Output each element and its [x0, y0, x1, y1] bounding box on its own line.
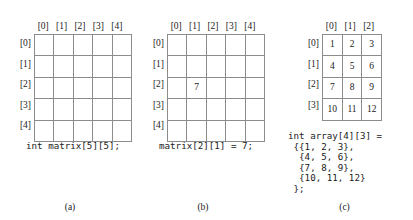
- matrix-cell-c-0-1: 2: [342, 35, 362, 56]
- matrix-cell-a-4-2: [73, 120, 92, 141]
- row-header-c-2: [2]: [302, 75, 322, 95]
- matrix-cell-c-3-2: 12: [362, 99, 382, 120]
- matrix-cell-a-4-3: [93, 120, 112, 141]
- column-header-row-b: [0][1][2][3][4]: [167, 22, 259, 32]
- column-header-a-3: [3]: [89, 22, 107, 32]
- matrix-cell-a-3-3: [93, 99, 112, 120]
- matrix-cell-b-2-0: [168, 77, 187, 98]
- row-header-a-0: [0]: [14, 34, 34, 54]
- code-caption-b: matrix[2][1] = 7;: [159, 141, 253, 152]
- matrix-cell-a-1-0: [35, 56, 54, 77]
- matrix-cell-a-2-3: [93, 77, 112, 98]
- matrix-cell-b-3-3: [226, 99, 245, 120]
- column-header-b-4: [4]: [241, 22, 259, 32]
- matrix-cell-a-2-4: [112, 77, 131, 98]
- matrix-cell-c-2-1: 8: [342, 77, 362, 98]
- matrix-cell-c-1-0: 4: [323, 56, 343, 77]
- table-row: [35, 99, 132, 120]
- matrix-cell-b-3-1: [187, 99, 206, 120]
- matrix-cell-c-3-1: 11: [342, 99, 362, 120]
- row-header-a-4: [4]: [14, 116, 34, 136]
- table-row: [35, 120, 132, 141]
- row-header-b-3: [3]: [147, 95, 167, 115]
- column-header-c-1: [1]: [341, 22, 360, 32]
- matrix-cell-b-4-0: [168, 120, 187, 141]
- matrix-cell-b-2-4: [245, 77, 264, 98]
- column-header-a-0: [0]: [34, 22, 52, 32]
- matrix-cell-b-1-2: [206, 56, 225, 77]
- matrix-cell-b-0-3: [226, 35, 245, 56]
- row-header-b-4: [4]: [147, 116, 167, 136]
- matrix-cell-a-3-4: [112, 99, 131, 120]
- matrix-grid-c: [0][1][2][3] 123456789101112: [302, 34, 382, 121]
- table-row: [168, 56, 265, 77]
- table-row: 789: [323, 77, 382, 98]
- row-header-c-0: [0]: [302, 34, 322, 54]
- table-row: 101112: [323, 99, 382, 120]
- matrix-cell-b-4-4: [245, 120, 264, 141]
- matrix-cell-a-4-0: [35, 120, 54, 141]
- matrix-cell-b-4-2: [206, 120, 225, 141]
- row-header-a-2: [2]: [14, 75, 34, 95]
- matrix-cell-a-2-0: [35, 77, 54, 98]
- column-header-b-1: [1]: [185, 22, 203, 32]
- table-row: [168, 35, 265, 56]
- matrix-cell-b-2-3: [226, 77, 245, 98]
- column-header-c-0: [0]: [322, 22, 341, 32]
- matrix-cell-b-1-3: [226, 56, 245, 77]
- matrix-cell-c-3-0: 10: [323, 99, 343, 120]
- row-header-column-c: [0][1][2][3]: [302, 34, 322, 121]
- matrix-cell-b-2-1: 7: [187, 77, 206, 98]
- row-header-b-1: [1]: [147, 54, 167, 74]
- matrix-cell-a-3-1: [54, 99, 73, 120]
- matrix-cell-a-0-3: [93, 35, 112, 56]
- matrix-cell-c-2-2: 9: [362, 77, 382, 98]
- row-header-a-3: [3]: [14, 95, 34, 115]
- matrix-table-a: [34, 34, 132, 142]
- column-header-row-a: [0][1][2][3][4]: [34, 22, 126, 32]
- matrix-cell-b-3-2: [206, 99, 225, 120]
- column-header-a-1: [1]: [52, 22, 70, 32]
- matrix-table-c: 123456789101112: [322, 34, 382, 121]
- matrix-cell-a-2-2: [73, 77, 92, 98]
- matrix-cell-a-0-1: [54, 35, 73, 56]
- matrix-cell-a-1-3: [93, 56, 112, 77]
- table-row: [168, 99, 265, 120]
- table-row: [35, 35, 132, 56]
- matrix-grid-a: [0][1][2][3][4]: [14, 34, 132, 142]
- matrix-cell-b-4-3: [226, 120, 245, 141]
- matrix-cell-c-1-2: 6: [362, 56, 382, 77]
- matrix-cell-a-0-4: [112, 35, 131, 56]
- table-row: 456: [323, 56, 382, 77]
- table-row: [35, 56, 132, 77]
- row-header-a-1: [1]: [14, 54, 34, 74]
- matrix-cell-a-1-1: [54, 56, 73, 77]
- matrix-cell-a-4-1: [54, 120, 73, 141]
- matrix-cell-b-2-2: [206, 77, 225, 98]
- column-header-a-2: [2]: [71, 22, 89, 32]
- table-row: [35, 77, 132, 98]
- code-caption-a: int matrix[5][5];: [26, 141, 120, 152]
- row-header-c-3: [3]: [302, 95, 322, 115]
- panel-letter-a: (a): [0, 203, 140, 213]
- column-header-c-2: [2]: [359, 22, 378, 32]
- column-header-a-4: [4]: [108, 22, 126, 32]
- column-header-b-3: [3]: [222, 22, 240, 32]
- row-header-column-b: [0][1][2][3][4]: [147, 34, 167, 142]
- matrix-cell-b-0-0: [168, 35, 187, 56]
- matrix-cell-b-3-4: [245, 99, 264, 120]
- matrix-cell-b-1-0: [168, 56, 187, 77]
- figure-panel-b: [0][1][2][3][4] [0][1][2][3][4] 7 matrix…: [133, 0, 273, 220]
- matrix-cell-a-0-0: [35, 35, 54, 56]
- column-header-row-c: [0][1][2]: [322, 22, 378, 32]
- matrix-cell-b-0-2: [206, 35, 225, 56]
- matrix-cell-b-1-1: [187, 56, 206, 77]
- matrix-cell-a-2-1: [54, 77, 73, 98]
- code-caption-c: int array[4][3] = {{1, 2, 3}, {4, 5, 6},…: [288, 131, 382, 195]
- matrix-table-b: 7: [167, 34, 265, 142]
- matrix-cell-c-1-1: 5: [342, 56, 362, 77]
- row-header-column-a: [0][1][2][3][4]: [14, 34, 34, 142]
- column-header-b-2: [2]: [204, 22, 222, 32]
- matrix-cell-b-0-4: [245, 35, 264, 56]
- matrix-cell-c-0-2: 3: [362, 35, 382, 56]
